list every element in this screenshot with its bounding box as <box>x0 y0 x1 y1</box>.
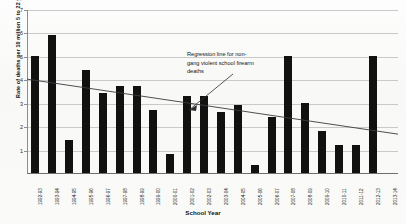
x-tick-label-text: 1993-94 <box>55 188 60 205</box>
y-tick-label: 3 <box>7 101 23 107</box>
regression-annotation: Regression line for non- gang violent sc… <box>187 50 291 76</box>
x-tick-label-text: 2004-05 <box>241 188 246 205</box>
x-tick-label-text: 1992-93 <box>38 188 43 205</box>
y-tick-label: 2 <box>7 124 23 130</box>
x-tick-label: 1998-99 <box>132 175 142 207</box>
annotation-line-2: gang violent school firearm <box>187 59 291 68</box>
x-tick-label: 1992-93 <box>30 175 40 207</box>
annotation-line-1: Regression line for non- <box>187 50 291 59</box>
x-tick-label-text: 2013-14 <box>393 188 398 205</box>
x-axis-title: School Year <box>0 209 406 216</box>
x-tick-label-text: 2003-04 <box>224 188 229 205</box>
x-tick-label-text: 1995-96 <box>89 188 94 205</box>
x-tick-label: 2009-10 <box>317 175 327 207</box>
x-tick-label-text: 2010-11 <box>342 188 347 205</box>
x-tick-label: 2006-07 <box>267 175 277 207</box>
x-tick-label-text: 1999-00 <box>156 188 161 205</box>
x-tick-label: 2000-01 <box>165 175 175 207</box>
x-tick-label: 1997-98 <box>115 175 125 207</box>
x-tick-label-text: 1998-99 <box>140 188 145 205</box>
x-tick-label: 2005-06 <box>250 175 260 207</box>
plot-area <box>27 10 398 174</box>
x-tick-label-text: 2009-10 <box>325 188 330 205</box>
y-tick-label: 7 <box>7 7 23 13</box>
x-tick-label: 2013-14 <box>385 175 395 207</box>
x-tick-label: 1993-94 <box>47 175 57 207</box>
x-tick-label-text: 2007-08 <box>291 188 296 205</box>
x-tick-label-text: 2000-01 <box>173 188 178 205</box>
x-tick-label-text: 1996-97 <box>106 188 111 205</box>
x-tick-label: 2008-09 <box>300 175 310 207</box>
x-tick-label-text: 2002-03 <box>207 188 212 205</box>
x-tick-label-text: 2008-09 <box>308 188 313 205</box>
x-tick-label-text: 2012-13 <box>376 188 381 205</box>
x-tick-label: 2007-08 <box>283 175 293 207</box>
x-tick-label: 1995-96 <box>81 175 91 207</box>
y-axis-ticks: 1234567 <box>0 10 27 174</box>
x-tick-label: 2012-13 <box>368 175 378 207</box>
x-axis-tick-labels: 1992-931993-941994-951995-961996-971997-… <box>27 175 398 207</box>
x-tick-label: 2003-04 <box>216 175 226 207</box>
x-tick-label-text: 1997-98 <box>123 188 128 205</box>
x-tick-label-text: 1994-95 <box>72 188 77 205</box>
bar-chart: Rate of deaths per 10 million 5 to 22 ye… <box>0 0 406 224</box>
x-tick-label: 2001-02 <box>182 175 192 207</box>
x-tick-label-text: 2001-02 <box>190 188 195 205</box>
x-tick-label: 2004-05 <box>233 175 243 207</box>
x-tick-label: 2010-11 <box>334 175 344 207</box>
y-tick-label: 6 <box>7 30 23 36</box>
x-tick-label-text: 2011-12 <box>359 188 364 205</box>
annotation-line-3: deaths <box>187 67 291 76</box>
x-tick-label: 1996-97 <box>98 175 108 207</box>
x-tick-label: 2011-12 <box>351 175 361 207</box>
x-tick-label-text: 2005-06 <box>258 188 263 205</box>
x-tick-label-text: 2006-07 <box>275 188 280 205</box>
y-tick-label: 5 <box>7 54 23 60</box>
y-tick-label: 4 <box>7 77 23 83</box>
x-tick-label: 2002-03 <box>199 175 209 207</box>
y-tick-label: 1 <box>7 148 23 154</box>
annotation-arrow-icon <box>177 70 237 116</box>
x-tick-label: 1999-00 <box>148 175 158 207</box>
x-tick-label: 1994-95 <box>64 175 74 207</box>
